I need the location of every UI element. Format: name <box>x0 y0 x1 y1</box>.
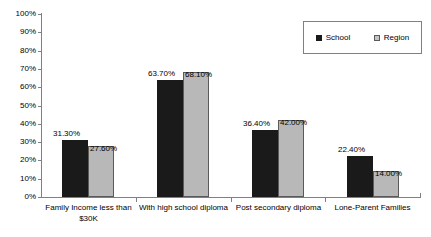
bar-school[interactable] <box>252 130 278 197</box>
y-tick-label: 30% <box>0 138 36 146</box>
data-label: 68.10% <box>185 70 212 79</box>
y-tick-mark <box>38 124 42 125</box>
legend-item-school[interactable]: School <box>316 34 350 42</box>
y-tick-label: 60% <box>0 83 36 91</box>
y-tick-mark <box>38 197 42 198</box>
legend-label-school: School <box>326 34 350 42</box>
y-tick-label: 100% <box>0 10 36 18</box>
school-swatch-icon <box>316 35 322 41</box>
legend-item-region[interactable]: Region <box>374 34 409 42</box>
y-tick-mark <box>38 106 42 107</box>
y-tick-mark <box>38 87 42 88</box>
bar-region[interactable] <box>278 120 304 197</box>
data-label: 63.70% <box>148 69 175 78</box>
legend-label-region: Region <box>384 34 409 42</box>
bar-school[interactable] <box>347 156 373 197</box>
category-label: Post secondary diploma <box>231 202 326 213</box>
y-tick-mark <box>38 14 42 15</box>
y-tick-label: 20% <box>0 156 36 164</box>
y-tick-label: 0% <box>0 193 36 201</box>
chart-legend[interactable]: School Region <box>303 21 422 54</box>
y-tick-mark <box>38 32 42 33</box>
data-label: 14.00% <box>375 169 402 178</box>
y-tick-label: 90% <box>0 28 36 36</box>
bar-region[interactable] <box>183 72 209 197</box>
data-label: 36.40% <box>243 119 270 128</box>
bar-region[interactable] <box>88 146 114 197</box>
category-label: Lone-Parent Families <box>325 202 420 213</box>
y-tick-mark <box>38 179 42 180</box>
y-tick-label: 40% <box>0 120 36 128</box>
data-label: 42.00% <box>280 118 307 127</box>
y-tick-mark <box>38 51 42 52</box>
data-label: 31.30% <box>53 129 80 138</box>
y-tick-label: 10% <box>0 175 36 183</box>
data-label: 22.40% <box>338 145 365 154</box>
category-label: With high school diploma <box>136 202 231 213</box>
y-tick-mark <box>38 160 42 161</box>
y-tick-mark <box>38 142 42 143</box>
category-label: Family Income less than $30K <box>41 202 136 224</box>
y-tick-mark <box>38 69 42 70</box>
region-swatch-icon <box>374 35 380 41</box>
bar-school[interactable] <box>157 80 183 197</box>
y-tick-label: 50% <box>0 102 36 110</box>
y-tick-label: 70% <box>0 65 36 73</box>
bar-school[interactable] <box>62 140 88 197</box>
bar-chart: 0%10%20%30%40%50%60%70%80%90%100% 31.30%… <box>0 0 431 237</box>
x-axis-end-cap <box>420 193 421 198</box>
y-tick-label: 80% <box>0 47 36 55</box>
data-label: 27.60% <box>90 144 117 153</box>
